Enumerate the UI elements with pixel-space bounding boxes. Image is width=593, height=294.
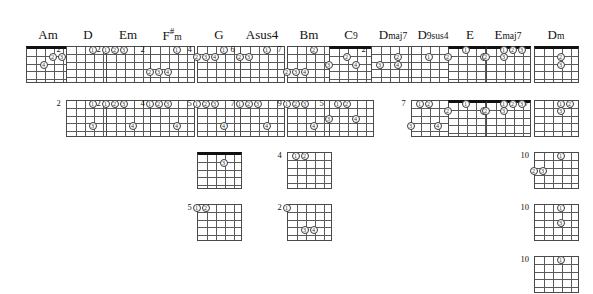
fret-line (535, 227, 578, 228)
chord-name-Dmaj7: Dmaj7 (379, 28, 407, 42)
fret-line (288, 160, 331, 161)
finger-dot: 2 (310, 46, 318, 54)
finger-dot: 4 (211, 53, 219, 61)
finger-dot: 1 (462, 46, 470, 54)
fret-line (330, 131, 373, 132)
fret-line (487, 64, 530, 65)
fret-line (535, 183, 578, 184)
string-line (523, 49, 524, 82)
finger-dot: 1 (173, 46, 181, 54)
finger-dot: 3 (211, 100, 219, 108)
fret-position-label: 4 (188, 45, 192, 54)
finger-dot: 2 (301, 152, 309, 160)
chord-diagram[interactable]: 412 (287, 152, 333, 190)
fret-line (372, 77, 415, 78)
chord-diagram[interactable]: 12323 (486, 46, 532, 84)
fret-line (198, 77, 241, 78)
fret-position-label: 4 (278, 151, 282, 160)
finger-dot: 3 (557, 219, 565, 227)
string-line (207, 155, 208, 188)
finger-dot: 1 (283, 204, 291, 212)
fret-line (288, 168, 331, 169)
finger-dot: 1 (334, 100, 342, 108)
fret-line (107, 116, 150, 117)
chord-name-Dm: Dm (548, 28, 565, 42)
string-line (458, 103, 459, 136)
finger-dot: 1 (89, 46, 97, 54)
finger-dot: 3 (155, 68, 163, 76)
finger-dot: 4 (129, 122, 137, 130)
fret-line (535, 175, 578, 176)
finger-dot: 3 (301, 100, 309, 108)
fret-line (487, 125, 530, 126)
string-line (496, 49, 497, 82)
fret-line (27, 79, 70, 80)
chord-diagram[interactable]: 234 (329, 46, 375, 84)
chord-diagram[interactable]: 7123 (534, 100, 580, 138)
chord-diagram[interactable]: 1013 (534, 204, 580, 242)
fret-line (535, 131, 578, 132)
finger-dot: 2 (193, 53, 201, 61)
finger-dot: 2 (245, 100, 253, 108)
fret-line (535, 235, 578, 236)
fret-position-label: 2 (57, 99, 61, 108)
finger-dot: 3 (376, 61, 384, 69)
fret-line (241, 116, 284, 117)
fret-position-label: 2 (362, 45, 366, 54)
fret-line (151, 131, 194, 132)
fretboard-grid (197, 46, 242, 83)
string-line (476, 103, 477, 136)
chord-diagram[interactable]: 51234 (329, 100, 375, 138)
finger-dot: 1 (557, 152, 565, 160)
fret-line (198, 227, 241, 228)
fret-line (330, 108, 373, 109)
fret-line (198, 62, 241, 63)
fret-position-label: 9 (278, 99, 282, 108)
fret-line (288, 77, 331, 78)
fret-position-label: 2 (97, 45, 101, 54)
fret-line (198, 170, 241, 171)
chord-name-E: E (466, 28, 474, 41)
string-line (476, 49, 477, 82)
finger-dot: 2 (444, 107, 452, 115)
finger-dot: 2 (111, 46, 119, 54)
fret-line (330, 56, 373, 57)
fret-line (288, 54, 331, 55)
finger-dot: 2 (343, 100, 351, 108)
finger-dot: 2 (202, 100, 210, 108)
fret-line (487, 118, 530, 119)
fret-line (487, 56, 530, 57)
finger-dot: 4 (263, 122, 271, 130)
finger-dot: 3 (301, 226, 309, 234)
fret-position-label: 7 (402, 99, 406, 108)
finger-dot: 4 (310, 122, 318, 130)
fret-line (241, 123, 284, 124)
finger-dot: 3 (557, 107, 565, 115)
finger-dot: 4 (301, 68, 309, 76)
chord-diagram[interactable]: 41234 (197, 46, 243, 84)
finger-dot: 4 (394, 61, 402, 69)
fret-line (288, 108, 331, 109)
chord-diagram[interactable]: 23 (534, 46, 580, 84)
finger-dot: 2 (343, 53, 351, 61)
finger-dot: 3 (325, 61, 333, 69)
chord-diagram[interactable]: 2134 (287, 204, 333, 242)
finger-dot: 2 (202, 204, 210, 212)
fret-position-label: 7 (231, 99, 235, 108)
fret-position-label: 5 (188, 99, 192, 108)
finger-dot: 2 (566, 100, 574, 108)
finger-dot: 1 (557, 256, 565, 264)
finger-dot: 1 (193, 100, 201, 108)
fret-line (151, 54, 194, 55)
finger-dot: 2 (49, 53, 57, 61)
finger-dot: 2 (530, 167, 538, 175)
chord-diagram[interactable]: 10123 (534, 152, 580, 190)
finger-dot: 1 (462, 100, 470, 108)
finger-dot: 3 (500, 107, 508, 115)
chord-diagram[interactable]: 3 (197, 152, 243, 190)
finger-dot: 1 (416, 100, 424, 108)
chord-diagram[interactable]: 512 (197, 204, 243, 242)
string-line (523, 103, 524, 136)
fret-line (288, 212, 331, 213)
chord-diagram[interactable]: 101 (534, 256, 580, 294)
